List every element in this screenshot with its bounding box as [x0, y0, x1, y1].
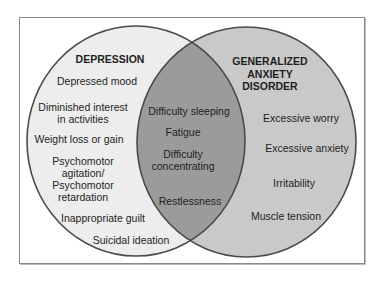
depression-item: agitation/	[62, 167, 105, 179]
depression-item: Psychomotor	[52, 179, 113, 191]
anxiety-item: Excessive worry	[263, 112, 339, 124]
overlap-item: Restlessness	[159, 195, 221, 207]
depression-title: DEPRESSION	[76, 53, 145, 66]
depression-item: Psychomotor	[52, 155, 113, 167]
depression-item: retardation	[58, 191, 108, 203]
anxiety-title-line: GENERALIZED	[232, 55, 307, 68]
depression-item: Weight loss or gain	[34, 133, 123, 145]
overlap-item: Fatigue	[165, 126, 200, 138]
depression-item: Depressed mood	[57, 75, 137, 87]
anxiety-item: Excessive anxiety	[265, 142, 348, 154]
anxiety-title-line: DISORDER	[242, 80, 297, 93]
overlap-item: Difficulty	[163, 148, 202, 160]
depression-item: in activities	[57, 113, 108, 125]
depression-item: Diminished interest	[38, 101, 127, 113]
depression-item: Suicidal ideation	[93, 234, 169, 246]
anxiety-item: Irritability	[273, 177, 315, 189]
anxiety-item: Muscle tension	[251, 210, 321, 222]
overlap-item: Difficulty sleeping	[148, 105, 230, 117]
overlap-item: concentrating	[151, 160, 214, 172]
anxiety-title-line: ANXIETY	[247, 68, 293, 81]
depression-item: Inappropriate guilt	[61, 212, 145, 224]
